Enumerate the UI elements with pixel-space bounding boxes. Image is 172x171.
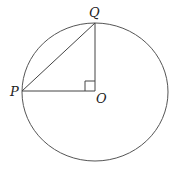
geometry-figure: Q P O [0,0,172,171]
right-angle-marker [85,81,95,91]
label-p: P [9,84,19,99]
label-o: O [96,91,107,106]
diagram-canvas: Q P O [0,0,172,171]
segment-pq [22,23,95,91]
label-q: Q [89,5,100,20]
